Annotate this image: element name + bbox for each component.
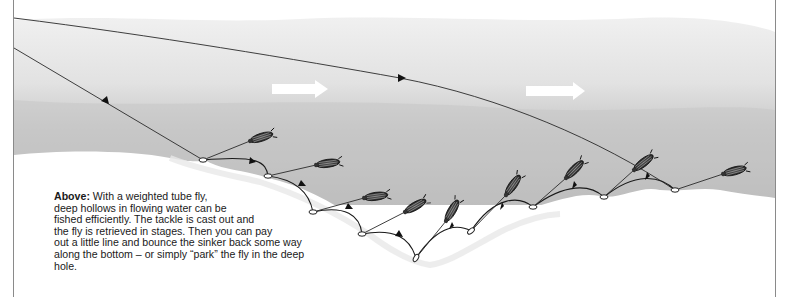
figure-caption: Above: With a weighted tube fly, deep ho… [54, 191, 374, 272]
figure-frame: Above: With a weighted tube fly, deep ho… [0, 0, 789, 297]
caption-lead: Above: [54, 190, 90, 202]
caption-line-1: Above: With a weighted tube fly, [54, 191, 374, 203]
caption-line-6: along the bottom – or simply “park” the … [54, 249, 374, 261]
caption-line-7: hole. [54, 261, 374, 273]
